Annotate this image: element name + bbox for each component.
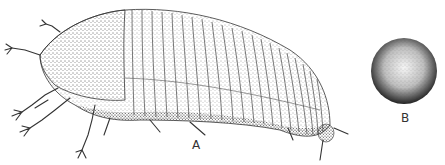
panel-label-b: B — [401, 111, 409, 125]
specimen-a — [5, 9, 348, 160]
specimen-b — [371, 38, 437, 104]
illustration — [0, 0, 445, 165]
panel-label-a: A — [192, 138, 200, 152]
